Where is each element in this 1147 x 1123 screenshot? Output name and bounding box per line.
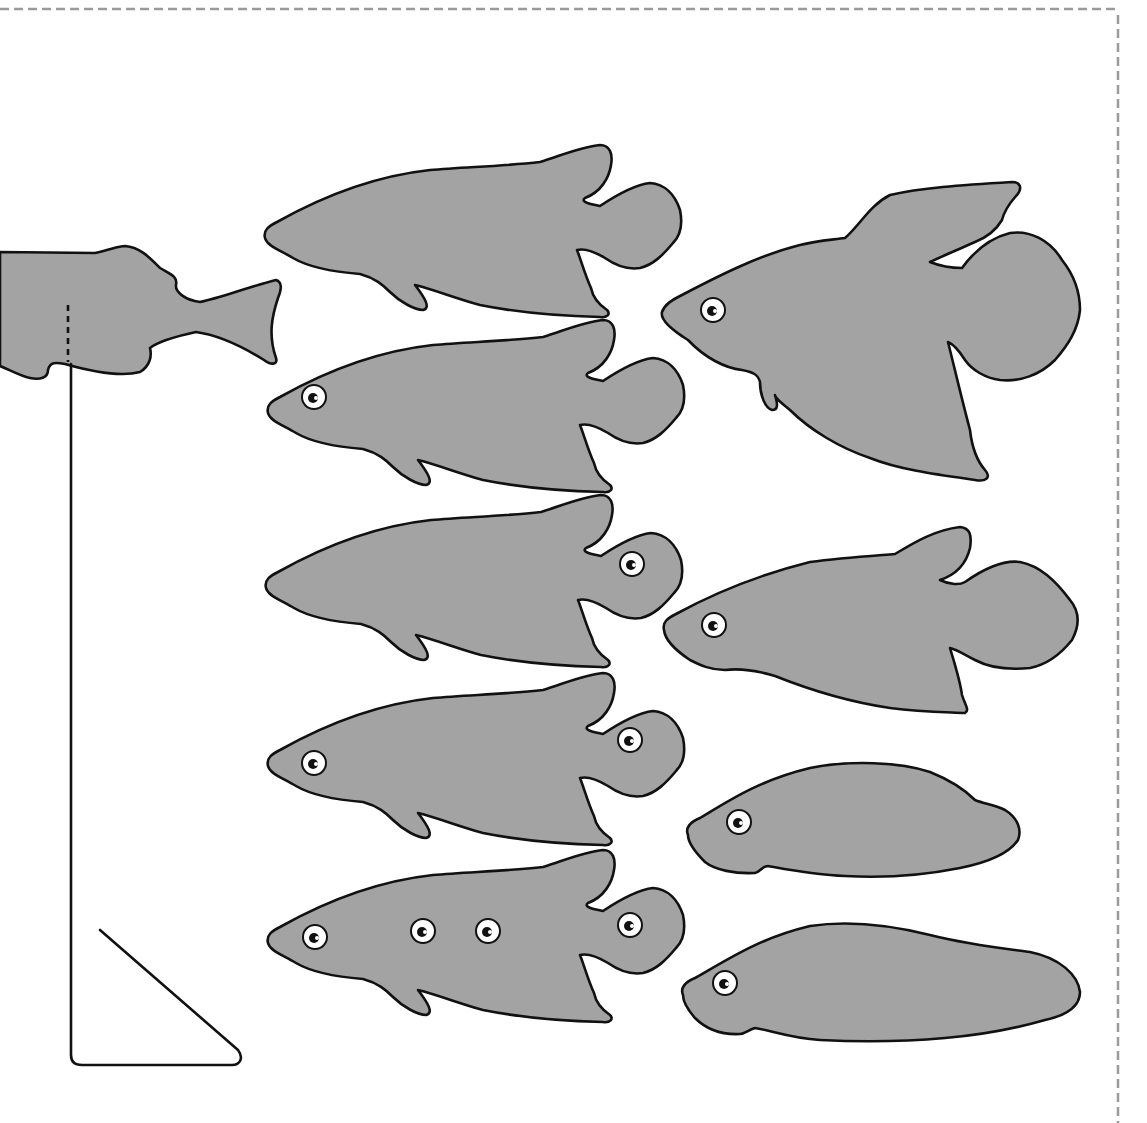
fish-right-col-4 (682, 923, 1080, 1041)
eye-icon (701, 298, 725, 322)
eye-icon (302, 751, 326, 775)
eye-icon (618, 728, 642, 752)
fish-right-col-2 (664, 527, 1078, 713)
eye-icon (303, 925, 327, 949)
eye-icon (727, 810, 751, 834)
eye-icon (713, 971, 737, 995)
eye-icon (702, 613, 726, 637)
stand-bracket (71, 364, 241, 1065)
fish-left-col-4 (268, 673, 685, 845)
eye-icon (302, 385, 326, 409)
eye-icon (618, 913, 642, 937)
fish-left-col-3 (266, 495, 683, 667)
fish-right-col-3 (687, 763, 1019, 877)
eye-icon (411, 919, 435, 943)
fish-diagram (0, 0, 1147, 1123)
fish-left-col-1 (265, 145, 682, 317)
fish-left-col-2 (268, 320, 685, 492)
fish-cut-off-left (0, 246, 281, 379)
eye-icon (476, 919, 500, 943)
eye-icon (620, 552, 644, 576)
fish-left-col-5 (268, 850, 685, 1022)
fish-right-col-1 (662, 182, 1080, 481)
